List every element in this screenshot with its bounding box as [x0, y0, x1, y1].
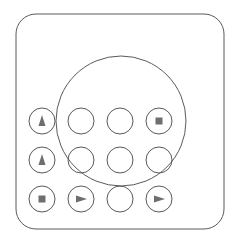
button-grid: [29, 108, 172, 212]
circle-button-r0c3[interactable]: [146, 108, 172, 134]
circle-button-r1c1[interactable]: [68, 147, 94, 173]
button-outline[interactable]: [107, 147, 133, 173]
circle-button-r2c3[interactable]: [146, 186, 172, 212]
circle-button-r1c0[interactable]: [29, 147, 55, 173]
stop-square-icon: [39, 196, 46, 203]
rounded-frame: [16, 14, 224, 229]
circle-button-r2c2[interactable]: [107, 186, 133, 212]
circle-button-r1c3[interactable]: [146, 147, 172, 173]
circle-button-r1c2[interactable]: [107, 147, 133, 173]
play-triangle-right-icon: [154, 196, 165, 203]
circle-button-r0c0[interactable]: [29, 108, 55, 134]
play-triangle-right-icon: [76, 196, 87, 203]
diagram-canvas: [0, 0, 236, 235]
button-outline[interactable]: [68, 108, 94, 134]
stop-square-icon: [156, 118, 163, 125]
triangle-up-icon: [39, 154, 46, 165]
button-outline[interactable]: [107, 186, 133, 212]
large-circle: [56, 56, 186, 186]
button-outline[interactable]: [146, 147, 172, 173]
circle-button-r0c1[interactable]: [68, 108, 94, 134]
triangle-up-icon: [39, 115, 46, 126]
circle-button-r2c1[interactable]: [68, 186, 94, 212]
button-outline[interactable]: [107, 108, 133, 134]
button-outline[interactable]: [68, 147, 94, 173]
circle-button-r0c2[interactable]: [107, 108, 133, 134]
circle-button-r2c0[interactable]: [29, 186, 55, 212]
